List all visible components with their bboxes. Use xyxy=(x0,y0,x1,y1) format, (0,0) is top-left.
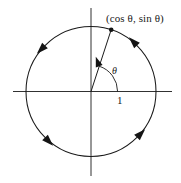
angle-theta-label: θ xyxy=(112,66,117,76)
radius-length-label: 1 xyxy=(117,95,123,106)
terminal-point-dot xyxy=(109,27,114,32)
radius-segment xyxy=(91,30,111,92)
unit-circle-figure: (cos θ, sin θ) θ 1 xyxy=(0,0,181,183)
unit-circle-diagram xyxy=(0,0,181,183)
terminal-point-label: (cos θ, sin θ) xyxy=(106,13,164,24)
